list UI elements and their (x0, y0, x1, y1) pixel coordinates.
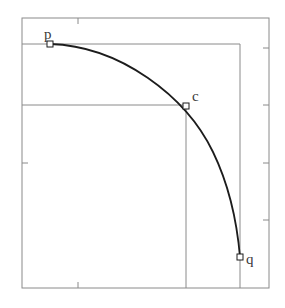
guide-line-group (22, 44, 240, 288)
axis-tick-group (22, 18, 269, 288)
bezier-curve (50, 44, 240, 257)
plot-frame (22, 18, 269, 288)
point-label-c: c (192, 89, 199, 104)
point-marker-c (183, 103, 189, 109)
figure-canvas: p c q (0, 0, 285, 308)
control-point-markers (47, 41, 243, 260)
point-marker-q (237, 254, 243, 260)
point-label-q: q (246, 252, 254, 267)
point-label-p: p (44, 27, 52, 42)
figure-svg (0, 0, 285, 308)
